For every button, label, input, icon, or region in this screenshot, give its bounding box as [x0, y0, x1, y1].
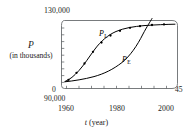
plot-canvas: PL PE — [0, 0, 193, 136]
data-point — [151, 24, 153, 26]
exponential-curve — [65, 19, 152, 82]
exponential-curve-label: PE — [121, 55, 131, 65]
data-point — [67, 79, 69, 81]
y-axis-ticks — [62, 28, 65, 82]
data-point — [129, 27, 131, 29]
data-point — [119, 30, 121, 32]
data-point — [163, 23, 165, 25]
logistic-curve — [65, 24, 175, 81]
population-model-figure: P (in thousands) 130,000 0 90,000 45 196… — [0, 0, 193, 136]
data-point — [139, 25, 141, 27]
logistic-curve-label: PL — [98, 29, 108, 39]
data-point — [92, 51, 94, 53]
x-axis-ticks — [67, 86, 167, 89]
data-point — [83, 62, 85, 64]
data-point — [75, 72, 77, 74]
data-point — [100, 41, 102, 43]
data-point — [109, 34, 111, 36]
